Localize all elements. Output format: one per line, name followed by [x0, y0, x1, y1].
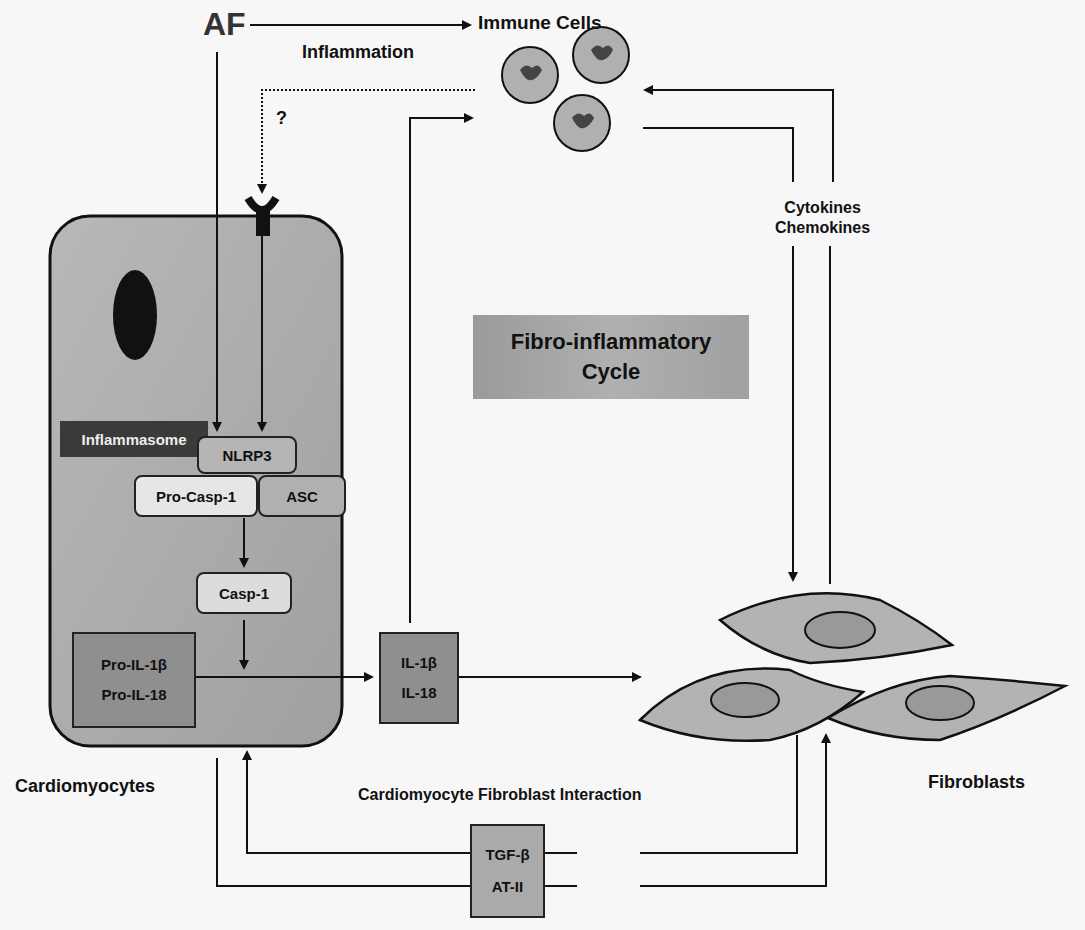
asc-box: ASC	[258, 475, 346, 517]
cardiomyocyte-nucleus	[113, 270, 157, 360]
il18: IL-18	[401, 678, 436, 708]
immune-cells-label: Immune Cells	[478, 12, 602, 34]
chemokines-line: Chemokines	[775, 218, 870, 238]
nlrp3-box: NLRP3	[197, 436, 297, 474]
receptor-icon	[248, 198, 276, 210]
at-ii: AT-II	[492, 871, 523, 903]
fibro-title-line1: Fibro-inflammatory	[511, 327, 711, 357]
fibro-title-line2: Cycle	[582, 357, 641, 387]
fibroblasts	[640, 593, 1065, 741]
af-label: AF	[203, 6, 246, 43]
pro-casp1-box: Pro-Casp-1	[134, 475, 258, 517]
casp1-box: Casp-1	[196, 572, 292, 614]
pro-il1b: Pro-IL-1β	[101, 650, 167, 680]
interaction-label: Cardiomyocyte Fibroblast Interaction	[358, 786, 642, 804]
pro-il18: Pro-IL-18	[101, 680, 166, 710]
fibroblasts-label: Fibroblasts	[928, 772, 1025, 793]
question-mark-label: ?	[276, 108, 287, 129]
inflammasome-label: Inflammasome	[60, 421, 208, 457]
tgf-beta: TGF-β	[485, 839, 529, 871]
fibro-inflammatory-cycle-box: Fibro-inflammatory Cycle	[473, 315, 749, 399]
immune-cells	[502, 27, 629, 151]
tgf-box: TGF-β AT-II	[470, 824, 545, 918]
cardiomyocytes-label: Cardiomyocytes	[15, 776, 155, 797]
pro-il-box: Pro-IL-1β Pro-IL-18	[72, 632, 196, 728]
il-box: IL-1β IL-18	[379, 632, 459, 724]
cytokines-label: Cytokines Chemokines	[775, 198, 870, 238]
il1b: IL-1β	[401, 648, 437, 678]
inflammation-label: Inflammation	[302, 42, 414, 63]
cytokines-line: Cytokines	[775, 198, 870, 218]
